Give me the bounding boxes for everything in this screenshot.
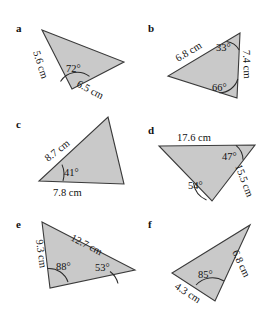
side-label-a-1: 5.6 cm xyxy=(31,49,50,80)
angle-label-b-1: 33° xyxy=(216,42,231,53)
triangle-group-c: c 8.7 cm 7.8 cm 41° xyxy=(16,117,124,198)
side-label-a-2: 6.5 cm xyxy=(75,78,105,101)
triangle-group-b: b 6.8 cm 7.4 cm 33° 66° xyxy=(148,22,253,98)
triangle-group-d: d 17.6 cm 15.5 cm 47° 54° xyxy=(148,124,256,201)
angle-label-e-1: 88° xyxy=(56,261,71,272)
angle-label-d-1: 47° xyxy=(222,151,237,162)
triangle-group-a: a 5.6 cm 6.5 cm 72° xyxy=(16,22,124,101)
item-letter-c: c xyxy=(16,118,21,130)
item-letter-d: d xyxy=(148,124,154,136)
angle-label-e-2: 53° xyxy=(95,262,110,273)
angle-label-c-1: 41° xyxy=(64,167,79,178)
item-letter-b: b xyxy=(148,22,154,34)
angle-label-a-1: 72° xyxy=(66,63,81,74)
side-label-c-2: 7.8 cm xyxy=(53,187,82,198)
side-label-d-1: 17.6 cm xyxy=(177,132,211,143)
side-label-f-2: 6.8 cm xyxy=(230,248,252,279)
side-label-d-2: 15.5 cm xyxy=(233,163,255,199)
triangle-group-e: e 9.3 cm 12.7 cm 88° 53° xyxy=(16,218,135,288)
side-label-b-2: 7.4 cm xyxy=(241,50,253,79)
item-letter-f: f xyxy=(148,218,152,230)
angle-label-f-1: 85° xyxy=(198,269,213,280)
triangle-shape-e xyxy=(42,222,135,288)
item-letter-e: e xyxy=(16,218,21,230)
triangle-group-f: f 4.3 cm 6.8 cm 85° xyxy=(148,218,252,305)
angle-label-d-2: 54° xyxy=(188,180,203,191)
triangles-worksheet-figure: a 5.6 cm 6.5 cm 72° b 6.8 cm 7.4 cm 33° … xyxy=(0,0,263,316)
item-letter-a: a xyxy=(16,22,22,34)
angle-label-b-2: 66° xyxy=(212,82,227,93)
